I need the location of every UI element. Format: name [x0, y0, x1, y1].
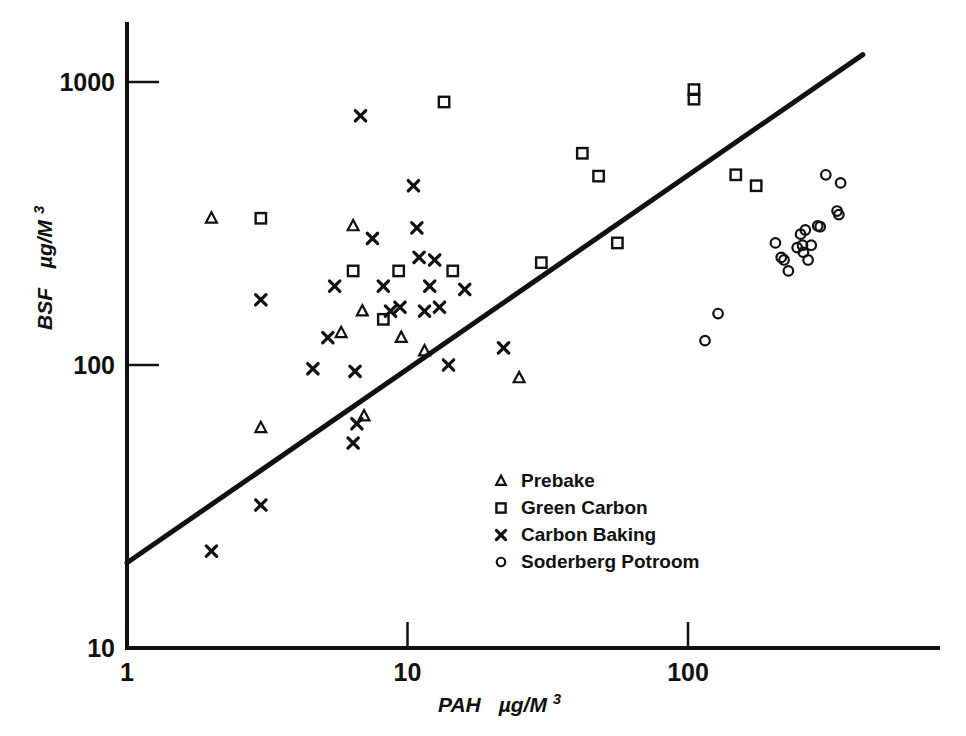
data-point-circle — [713, 309, 723, 319]
data-point-cross — [355, 111, 365, 121]
y-axis-title-sup: 3 — [30, 205, 47, 214]
data-point-circle — [771, 238, 781, 248]
legend-marker-square — [496, 503, 505, 512]
data-point-cross — [323, 332, 333, 342]
series-soderberg-potroom — [700, 170, 845, 345]
data-point-circle — [700, 336, 710, 346]
data-point-cross — [329, 281, 339, 291]
trend-line — [127, 55, 863, 563]
data-point-cross — [414, 252, 424, 262]
data-point-square — [612, 238, 622, 248]
x-tick-label: 10 — [394, 658, 422, 686]
data-point-cross — [352, 419, 362, 429]
data-point-triangle — [255, 422, 266, 432]
trend-line-segment — [127, 55, 863, 563]
data-point-square — [448, 266, 458, 276]
legend-label: Carbon Baking — [521, 524, 656, 545]
x-axis-title-main: PAH — [438, 693, 482, 716]
legend-label: Green Carbon — [521, 497, 648, 518]
data-point-square — [731, 170, 741, 180]
data-point-cross — [460, 284, 470, 294]
data-point-cross — [412, 223, 422, 233]
y-tick-label: 1000 — [59, 68, 115, 96]
data-point-cross — [256, 295, 266, 305]
svg-text:PAH µg/M 3: PAH µg/M 3 — [438, 690, 562, 716]
data-point-cross — [256, 500, 266, 510]
data-point-cross — [419, 306, 429, 316]
data-point-cross — [408, 181, 418, 191]
legend-marker-circle — [497, 558, 505, 566]
data-point-square — [348, 266, 358, 276]
data-point-cross — [378, 281, 388, 291]
scatter-plot-figure: 110100101001000 PrebakeGreen CarbonCarbo… — [0, 0, 966, 736]
data-point-circle — [836, 178, 846, 188]
data-point-triangle — [357, 305, 368, 315]
data-point-triangle — [336, 327, 347, 337]
legend: PrebakeGreen CarbonCarbon BakingSoderber… — [496, 470, 699, 572]
data-point-square — [751, 181, 761, 191]
data-point-cross — [443, 360, 453, 370]
data-point-triangle — [514, 372, 525, 382]
data-point-circle — [784, 266, 794, 276]
data-point-cross — [206, 546, 216, 556]
y-tick-label: 100 — [73, 351, 115, 379]
data-point-circle — [821, 170, 831, 180]
legend-marker-triangle — [496, 476, 506, 485]
data-point-square — [393, 266, 403, 276]
data-point-triangle — [419, 345, 430, 355]
data-point-cross — [350, 366, 360, 376]
legend-label: Prebake — [521, 470, 595, 491]
axis-tick-labels: 110100101001000 — [59, 68, 708, 686]
data-point-cross — [429, 255, 439, 265]
data-point-square — [439, 97, 449, 107]
data-point-cross — [498, 343, 508, 353]
x-axis-title: PAH µg/M 3 — [438, 690, 562, 716]
svg-text:BSF µg/M 3: BSF µg/M 3 — [30, 205, 56, 330]
x-axis-title-units: µg/M — [498, 693, 548, 716]
data-point-triangle — [206, 212, 217, 222]
data-point-square — [593, 171, 603, 181]
data-point-square — [536, 257, 546, 267]
legend-label: Soderberg Potroom — [521, 551, 699, 572]
data-point-cross — [367, 233, 377, 243]
y-axis-title: BSF µg/M 3 — [30, 205, 56, 330]
data-point-cross — [308, 364, 318, 374]
x-tick-label: 1 — [120, 658, 134, 686]
data-point-triangle — [396, 332, 407, 342]
plot-canvas: 110100101001000 PrebakeGreen CarbonCarbo… — [0, 0, 966, 736]
y-axis-title-main: BSF — [33, 287, 56, 330]
x-axis-title-sup: 3 — [553, 690, 562, 707]
y-axis-title-units: µg/M — [33, 219, 56, 269]
y-tick-label: 10 — [87, 634, 115, 662]
data-point-cross — [425, 281, 435, 291]
data-point-cross — [434, 302, 444, 312]
x-tick-label: 100 — [667, 658, 709, 686]
data-point-cross — [348, 438, 358, 448]
data-point-square — [577, 148, 587, 158]
legend-marker-cross — [496, 530, 505, 539]
data-point-triangle — [348, 220, 359, 230]
data-point-square — [256, 213, 266, 223]
data-point-circle — [803, 255, 813, 265]
